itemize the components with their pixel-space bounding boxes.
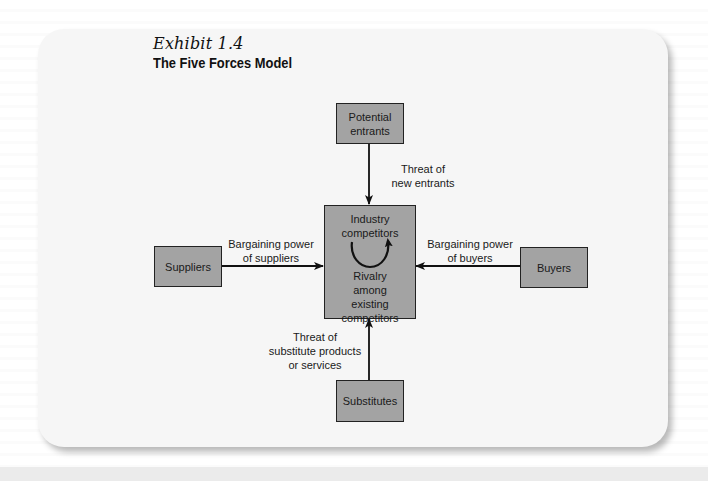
node-substitutes-label: Substitutes bbox=[343, 394, 397, 408]
edge-label-suppliers: Bargaining power of suppliers bbox=[226, 237, 316, 265]
node-buyers-label: Buyers bbox=[537, 261, 571, 275]
edge-label-buyers: Bargaining power of buyers bbox=[422, 237, 518, 265]
node-potential-entrants-label: Potential entrants bbox=[342, 110, 398, 138]
edge-label-substitutes: Threat of substitute products or service… bbox=[266, 330, 364, 372]
node-substitutes: Substitutes bbox=[336, 380, 404, 422]
node-suppliers: Suppliers bbox=[154, 246, 222, 287]
edge-label-new-entrants: Threat of new entrants bbox=[378, 162, 468, 190]
rivalry-cycle-icon bbox=[324, 205, 416, 319]
node-buyers: Buyers bbox=[520, 247, 588, 288]
node-industry-competitors: Industry competitors Rivalry among exist… bbox=[324, 205, 416, 319]
node-potential-entrants: Potential entrants bbox=[336, 103, 404, 144]
node-suppliers-label: Suppliers bbox=[165, 260, 211, 274]
